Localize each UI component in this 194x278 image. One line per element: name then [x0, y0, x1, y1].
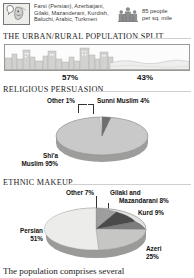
- heading-rule: [93, 91, 191, 92]
- urban-rural-heading: THE URBAN/RURAL POPULATION SPLIT: [3, 32, 164, 41]
- density-unit: per sq. mile: [142, 15, 194, 22]
- quick-facts-row: Farsi (Persian), Azerbaijani, Gilaki, Ma…: [0, 0, 194, 29]
- religion-pie-chart: [47, 110, 157, 170]
- leader-line: [88, 104, 94, 105]
- religion-label-shia: Shi'a Muslim 95%: [6, 152, 58, 167]
- urban-percent-label: 57%: [62, 73, 78, 82]
- languages-text: Farsi (Persian), Azerbaijani, Gilaki, Ma…: [34, 3, 112, 23]
- ethnic-label-other: Other 7%: [66, 189, 94, 197]
- rural-percent-label: 43%: [137, 73, 153, 82]
- religion-heading: RELIGIOUS PERSUASION: [3, 85, 104, 94]
- caption-text: The population comprises several: [3, 266, 191, 278]
- population-density-icon: [117, 4, 139, 24]
- ethnic-label-persian: Persian 51%: [3, 227, 43, 242]
- religion-label-shia-line1: Shi'a: [6, 152, 58, 160]
- ethnic-label-persian-line2: 51%: [3, 235, 43, 243]
- population-infographic: Farsi (Persian), Azerbaijani, Gilaki, Ma…: [0, 0, 194, 278]
- ethnic-pie-chart: [40, 198, 158, 264]
- languages-icon: [3, 3, 30, 25]
- density-value: 85 people: [142, 8, 194, 15]
- religion-label-other: Other 1%: [27, 97, 75, 105]
- ethnic-label-azeri: Azeri 25%: [146, 245, 162, 260]
- heading-rule: [133, 38, 191, 39]
- population-density-text: 85 people per sq. mile: [142, 8, 194, 22]
- religion-label-shia-line2: Muslim 95%: [6, 160, 58, 168]
- religion-label-sunni: Sunni Muslim 4%: [97, 97, 150, 105]
- ethnic-label-persian-line1: Persian: [3, 227, 43, 235]
- urban-rural-chart: [4, 44, 190, 71]
- ethnic-label-azeri-line1: Azeri: [146, 245, 162, 253]
- ethnic-label-azeri-line2: 25%: [146, 253, 162, 261]
- ethnic-heading: ETHNIC MAKEUP: [3, 178, 73, 187]
- ethnic-label-gilaki-line1: Gilaki and: [110, 189, 169, 197]
- heading-rule: [66, 184, 191, 185]
- leader-line: [78, 104, 87, 105]
